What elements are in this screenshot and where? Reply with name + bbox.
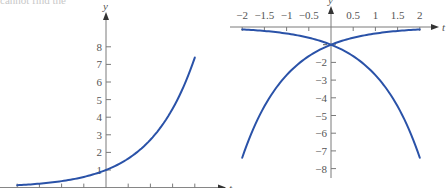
x-tick-label: 0.5 — [346, 9, 360, 21]
y-tick-label: 4 — [97, 111, 103, 123]
y-tick-label: −4 — [315, 92, 327, 104]
x-tick-label: −2 — [236, 9, 248, 21]
x-tick-label: −0.5 — [299, 9, 319, 21]
y-tick-label: −3 — [315, 74, 327, 86]
y-axis-arrow-icon — [103, 12, 109, 20]
y-axis-arrow-icon — [328, 6, 334, 14]
x-tick-label: −1.5 — [254, 9, 274, 21]
y-tick-label: 1 — [97, 164, 103, 176]
y-tick-label: −5 — [315, 110, 327, 122]
x-tick-label: 1 — [373, 9, 379, 21]
y-tick-label: 6 — [97, 76, 103, 88]
y-tick-label: 3 — [97, 129, 103, 141]
y-tick-label: 8 — [97, 41, 103, 53]
y-tick-label: −6 — [315, 127, 327, 139]
x-axis-arrow-icon — [431, 24, 439, 30]
y-tick-label: −2 — [315, 56, 327, 68]
x-tick-label: 1.5 — [391, 9, 405, 21]
y-tick-label: 7 — [97, 58, 103, 70]
x-axis-arrow-icon — [218, 185, 226, 188]
y-tick-label: −7 — [315, 145, 327, 157]
x-tick-label: −1 — [281, 9, 293, 21]
y-tick-label: 2 — [97, 146, 103, 158]
chart-canvas: ty12345678ty−2−1.5−1−0.50.511.52−2−3−4−5… — [0, 0, 446, 188]
x-axis-label: t — [442, 21, 446, 33]
x-axis-label: t — [229, 182, 233, 188]
y-axis-label: y — [327, 0, 333, 6]
y-tick-label: 5 — [97, 94, 103, 106]
y-tick-label: −8 — [315, 163, 327, 175]
x-tick-label: 2 — [417, 9, 423, 21]
y-axis-label: y — [102, 0, 108, 12]
